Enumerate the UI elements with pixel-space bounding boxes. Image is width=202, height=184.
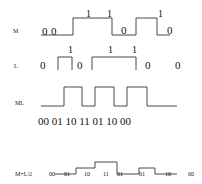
bit-label: 0 xyxy=(40,59,46,71)
row-label-m: M xyxy=(13,28,19,34)
bit-label: 1 xyxy=(132,44,137,55)
waveform-ml xyxy=(41,87,177,106)
signal-waveform-diagram: M 0011010 L 0101100 ML 00 01 10 11 01 10… xyxy=(0,0,202,184)
row-ml: ML 00 01 10 11 01 10 00 xyxy=(15,87,177,127)
pulse-segment xyxy=(92,57,136,70)
bit-label: 10 xyxy=(165,171,171,177)
bit-label: 0 xyxy=(42,25,48,37)
bit-label: 0 xyxy=(121,24,127,36)
pulse-segment xyxy=(58,57,72,70)
bit-label: 01 xyxy=(117,171,123,177)
bit-label: 0 xyxy=(51,25,57,37)
bit-label: 01 xyxy=(139,171,145,177)
row-label-ml: ML xyxy=(15,100,24,106)
waveform-m-plus-l-half xyxy=(55,162,177,174)
bit-label: 1 xyxy=(86,8,91,19)
bit-label: 1 xyxy=(68,44,73,55)
bit-label: 01 xyxy=(64,171,70,177)
bit-label: 10 xyxy=(84,171,90,177)
bit-label: 1 xyxy=(158,8,163,19)
row-m: M 0011010 xyxy=(13,8,173,37)
bit-labels-l: 0101100 xyxy=(40,44,181,71)
bit-label: 00 xyxy=(188,171,194,177)
row-l: L 0101100 xyxy=(14,44,181,71)
bit-label: 11 xyxy=(103,171,109,177)
waveform-m xyxy=(41,18,170,35)
bit-labels-m: 0011010 xyxy=(42,8,173,37)
bit-sequence-ml: 00 01 10 11 01 10 00 xyxy=(38,115,132,127)
bit-label: 0 xyxy=(175,59,181,71)
bit-label: 00 xyxy=(49,171,55,177)
waveform-l xyxy=(58,57,136,70)
row-label-l: L xyxy=(14,63,18,69)
bit-label: 1 xyxy=(107,8,112,19)
bit-label: 0 xyxy=(145,59,151,71)
bit-label: 0 xyxy=(77,59,83,71)
bit-label: 0 xyxy=(167,24,173,36)
row-label-m-plus-l-half: M+L/2 xyxy=(15,171,32,177)
bit-label: 1 xyxy=(108,44,113,55)
row-m-plus-l-half: M+L/2 0001101101011000 xyxy=(15,162,194,177)
